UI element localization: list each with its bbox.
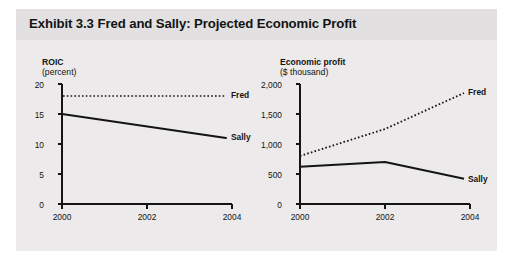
page-title: Exhibit 3.3 Fred and Sally: Projected Ec… xyxy=(29,16,356,31)
chart-roic-xtick-2002: 2002 xyxy=(127,212,167,222)
chart-ep-label-sally: Sally xyxy=(468,174,488,184)
chart-ep-ytick-2000: 2,000 xyxy=(256,80,282,90)
chart-ep-series-sally xyxy=(300,162,464,179)
chart-ep-xtick-2000: 2000 xyxy=(280,212,320,222)
chart-ep-ytick-1500: 1,500 xyxy=(256,110,282,120)
chart-roic-title: ROIC xyxy=(42,57,63,67)
chart-ep-xtick-2004: 2004 xyxy=(450,212,490,222)
chart-roic-ytick-5: 5 xyxy=(22,170,44,180)
chart-roic-plot xyxy=(46,78,246,218)
chart-ep-xtick-2002: 2002 xyxy=(365,212,405,222)
chart-ep-ytick-500: 500 xyxy=(256,170,282,180)
chart-roic-ytick-15: 15 xyxy=(22,110,44,120)
chart-roic-subtitle: (percent) xyxy=(42,67,76,77)
chart-roic-ytick-0: 0 xyxy=(22,200,44,210)
chart-roic-label-sally: Sally xyxy=(231,132,251,142)
chart-economic-profit-title: Economic profit xyxy=(280,57,345,67)
chart-economic-profit: Economic profit ($ thousand) 2,000 1,500… xyxy=(256,40,497,251)
chart-ep-ytick-0: 0 xyxy=(256,200,282,210)
chart-roic-series-sally xyxy=(62,114,226,138)
chart-roic-ytick-10: 10 xyxy=(22,140,44,150)
exhibit-panel: Exhibit 3.3 Fred and Sally: Projected Ec… xyxy=(16,9,497,251)
chart-ep-label-fred: Fred xyxy=(468,87,486,97)
chart-ep-series-fred xyxy=(300,93,464,156)
chart-roic-xtick-2000: 2000 xyxy=(42,212,82,222)
chart-roic-label-fred: Fred xyxy=(231,90,249,100)
chart-roic: ROIC (percent) 20 15 10 5 0 xyxy=(16,40,256,251)
chart-economic-profit-plot xyxy=(284,78,484,218)
chart-roic-xtick-2004: 2004 xyxy=(212,212,252,222)
chart-economic-profit-subtitle: ($ thousand) xyxy=(280,67,328,77)
chart-roic-ytick-20: 20 xyxy=(22,80,44,90)
chart-ep-ytick-1000: 1,000 xyxy=(256,140,282,150)
